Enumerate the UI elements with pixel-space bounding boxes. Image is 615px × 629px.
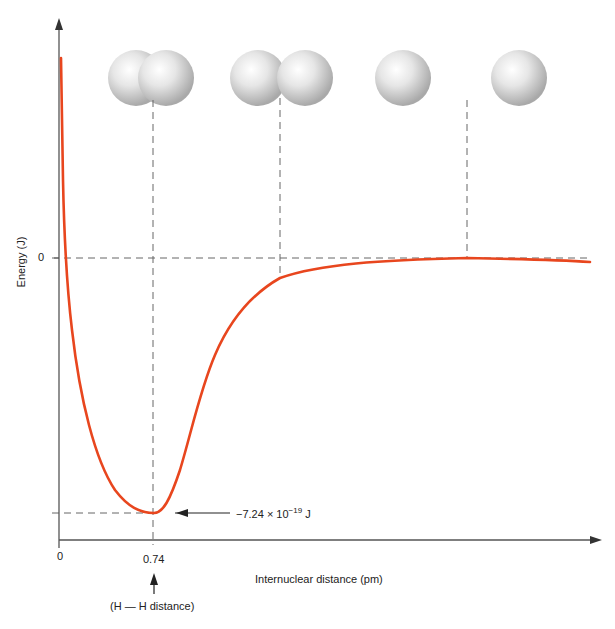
y-axis-label: Energy (J) — [15, 237, 27, 288]
arrow-left-icon — [176, 509, 188, 517]
x-axis-arrow-icon — [590, 536, 602, 544]
bond-distance-label: (H — H distance) — [110, 600, 194, 612]
separate-atoms-illustration — [375, 50, 547, 106]
bonded-atoms-illustration — [108, 50, 194, 106]
potential-energy-diagram — [0, 0, 615, 629]
bond-distance-arrow — [150, 573, 158, 594]
min-energy-label: −7.24 × 10−19 J — [236, 506, 311, 520]
guide-lines — [52, 98, 590, 545]
energy-curve — [61, 58, 590, 513]
arrow-up-icon — [150, 573, 158, 585]
x-axis-label: Internuclear distance (pm) — [255, 573, 383, 585]
min-energy-arrow — [175, 509, 230, 517]
x-tick-equilibrium: 0.74 — [143, 553, 164, 565]
touching-atoms-illustration — [230, 50, 333, 106]
y-tick-zero: 0 — [38, 251, 44, 263]
x-tick-zero: 0 — [57, 550, 63, 562]
y-axis-arrow-icon — [55, 18, 63, 30]
